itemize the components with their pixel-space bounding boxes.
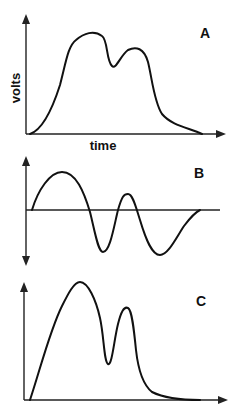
panel-c: C xyxy=(20,282,228,404)
panel-c-x-arrow-icon xyxy=(218,396,228,404)
panel-c-label: C xyxy=(196,293,206,309)
panel-b: B xyxy=(22,156,220,266)
panel-a-label: A xyxy=(200,25,210,41)
x-axis-label-time: time xyxy=(90,138,117,153)
y-axis-label-volts: volts xyxy=(8,73,23,103)
panel-a-waveform xyxy=(30,33,202,134)
panel-b-y-arrow-up-icon xyxy=(22,156,30,166)
panel-c-waveform xyxy=(30,282,200,400)
panel-b-y-arrow-down-icon xyxy=(22,256,30,266)
panel-c-y-arrow-icon xyxy=(20,282,28,292)
panel-b-label: B xyxy=(194,165,204,181)
panel-a-y-arrow-icon xyxy=(22,14,30,24)
waveform-diagram: A volts time B C xyxy=(0,0,239,410)
panel-a-x-arrow-icon xyxy=(216,130,226,138)
panel-a: A volts time xyxy=(8,14,226,153)
panel-b-waveform xyxy=(32,172,200,255)
